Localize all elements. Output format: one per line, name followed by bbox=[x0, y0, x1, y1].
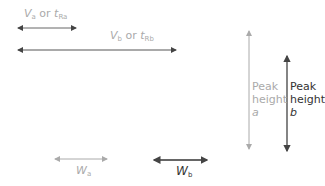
peak-a-label: Peak height a bbox=[252, 80, 287, 119]
wa-label: Wa bbox=[76, 164, 91, 181]
va-label: Va or tRa bbox=[24, 7, 67, 24]
peak-b-label: Peak height b bbox=[290, 80, 325, 119]
vb-label: Vb or tRb bbox=[110, 29, 154, 46]
wb-label: Wb bbox=[176, 165, 192, 182]
